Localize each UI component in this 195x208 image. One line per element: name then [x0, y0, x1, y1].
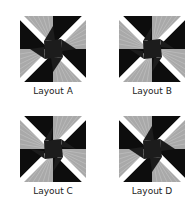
quilt-block-layout-b: [119, 16, 185, 82]
layout-c-panel: [20, 116, 86, 182]
layout-d-panel: [119, 116, 185, 182]
layout-c-label: Layout C: [3, 186, 103, 197]
center-square: [143, 39, 162, 59]
center-square: [44, 39, 63, 59]
center-square: [143, 139, 162, 159]
layout-d-label: Layout D: [102, 186, 195, 197]
layout-b-panel: [119, 16, 185, 82]
layout-a-label: Layout A: [3, 86, 103, 97]
quilt-block-layout-a: [20, 16, 86, 82]
quilt-block-layout-d: [119, 116, 185, 182]
layout-a-panel: [20, 16, 86, 82]
layout-b-label: Layout B: [102, 86, 195, 97]
center-square: [44, 139, 63, 159]
quilt-block-layout-c: [20, 116, 86, 182]
